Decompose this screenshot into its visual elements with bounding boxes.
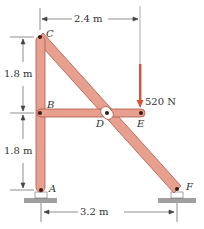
dim-lower-vertical: 1.8 m xyxy=(4,145,33,156)
point-A: A xyxy=(48,183,56,194)
load-arrow xyxy=(137,64,144,108)
load-label: 520 N xyxy=(145,96,176,107)
dim-top-horizontal: 2.4 m xyxy=(74,13,103,24)
point-E: E xyxy=(136,118,145,129)
point-C: C xyxy=(46,28,54,39)
dim-bottom-horizontal: 3.2 m xyxy=(80,206,109,217)
dim-upper-vertical: 1.8 m xyxy=(4,68,33,79)
point-B: B xyxy=(46,99,54,110)
point-D: D xyxy=(95,118,104,129)
frame-diagram: 2.4 m 1.8 m 1.8 m 3.2 m 520 N C B D E A … xyxy=(0,0,204,229)
point-F: F xyxy=(185,181,194,192)
member-BE xyxy=(37,109,145,117)
support-F xyxy=(158,192,196,203)
